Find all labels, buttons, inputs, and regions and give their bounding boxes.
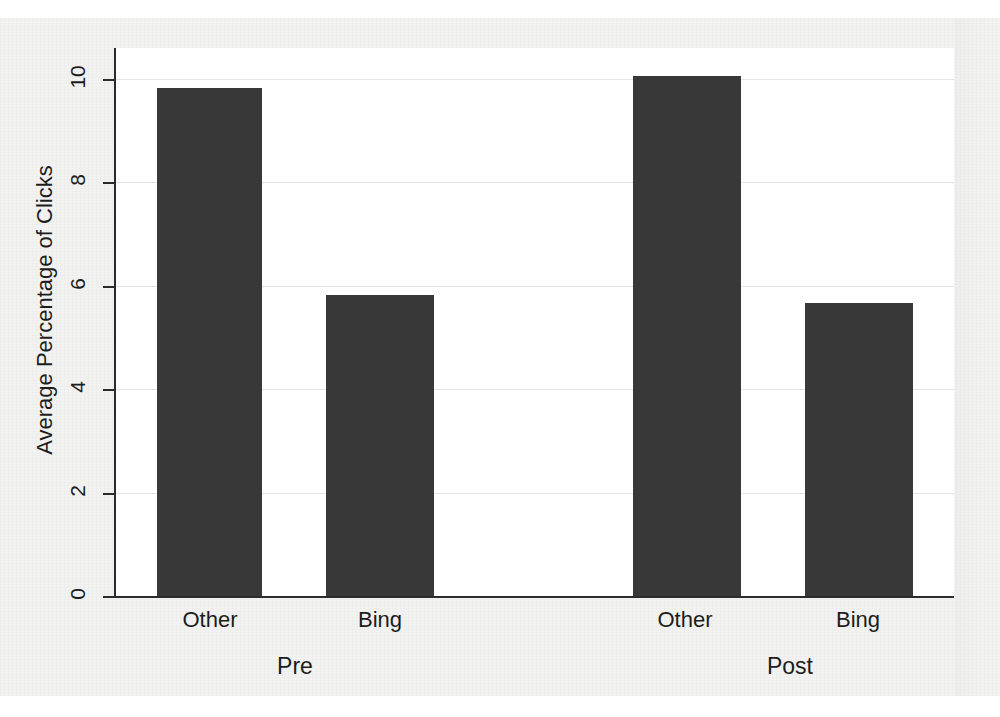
- y-tick-mark: [103, 286, 115, 288]
- y-tick-label: 0: [66, 576, 90, 612]
- y-tick-label: 6: [66, 266, 90, 302]
- x-tick-label: Other: [605, 607, 765, 633]
- bar[interactable]: [805, 303, 913, 597]
- x-tick-label: Bing: [778, 607, 938, 633]
- bar[interactable]: [633, 76, 741, 597]
- x-group-label: Post: [700, 653, 880, 680]
- y-tick-label: 10: [66, 59, 90, 95]
- x-axis-line: [108, 596, 954, 598]
- y-tick-label: 8: [66, 162, 90, 198]
- y-tick-mark: [103, 79, 115, 81]
- bar-chart-figure: 1086420 Average Percentage of Clicks Oth…: [0, 0, 1000, 717]
- y-axis-title: Average Percentage of Clicks: [32, 80, 58, 540]
- y-tick-label: 4: [66, 369, 90, 405]
- y-tick-mark: [103, 493, 115, 495]
- y-axis-line: [114, 48, 116, 597]
- y-tick-mark: [103, 596, 115, 598]
- x-tick-label: Other: [130, 607, 290, 633]
- y-tick-label: 2: [66, 473, 90, 509]
- plot-area: [116, 48, 954, 597]
- y-tick-mark: [103, 182, 115, 184]
- y-tick-mark: [103, 389, 115, 391]
- x-tick-label: Bing: [300, 607, 460, 633]
- bar[interactable]: [326, 295, 434, 597]
- gridline: [116, 79, 954, 80]
- bar[interactable]: [157, 88, 262, 597]
- x-group-label: Pre: [205, 653, 385, 680]
